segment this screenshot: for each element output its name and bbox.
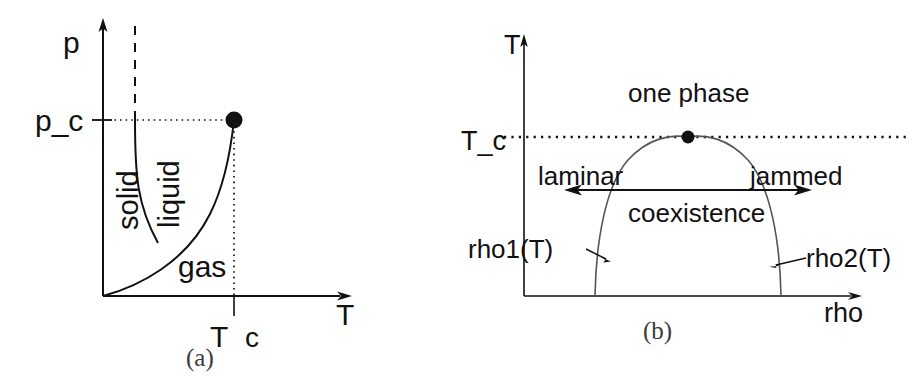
axis-label-p: p	[63, 28, 80, 58]
laminar-arrow-label: laminar	[538, 163, 623, 189]
axis-label-T: T	[504, 32, 521, 59]
gas-region-label: gas	[178, 252, 226, 282]
liquid-region-label: liquid	[155, 160, 184, 228]
T-c-tick-label: T_c	[461, 128, 506, 155]
p-c-tick-label: p_c	[35, 106, 83, 136]
rho1-branch-label: rho1(T)	[468, 236, 553, 262]
figure-root: p T p_c T c solid liquid gas (a)	[0, 0, 913, 382]
critical-point-dot	[226, 112, 243, 129]
rho2-leader-line	[769, 258, 806, 268]
solid-region-label: solid	[114, 170, 143, 230]
coexistence-region-label: coexistence	[628, 200, 765, 226]
x-axis-T	[103, 292, 352, 301]
panel-a: p T p_c T c solid liquid gas (a)	[0, 0, 456, 382]
y-axis-p	[99, 18, 108, 296]
rho2-branch-label: rho2(T)	[806, 245, 891, 271]
jammed-arrow-label: jammed	[750, 163, 842, 189]
panel-b-caption: (b)	[643, 318, 672, 343]
axis-label-rho: rho	[824, 300, 863, 327]
panel-b: T rho T_c one phase coexistence laminar …	[456, 0, 913, 382]
axis-label-T: T	[336, 300, 354, 330]
critical-point-dot	[682, 131, 695, 144]
one-phase-region-label: one phase	[628, 80, 749, 106]
panel-a-caption: (a)	[186, 345, 214, 370]
T-c-tick-label-c: c	[245, 324, 259, 352]
x-axis-rho	[524, 292, 862, 300]
